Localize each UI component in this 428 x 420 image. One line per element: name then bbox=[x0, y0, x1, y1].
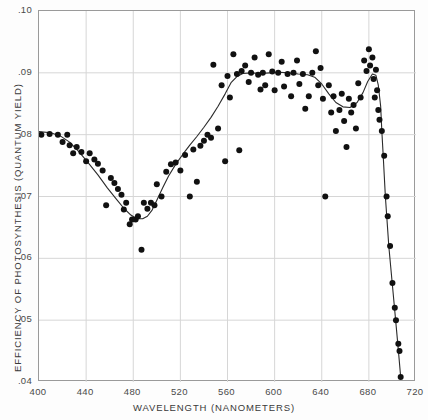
data-point bbox=[159, 194, 165, 200]
data-point bbox=[372, 95, 378, 101]
data-point bbox=[60, 139, 66, 145]
data-point bbox=[67, 142, 73, 148]
data-point bbox=[111, 180, 117, 186]
data-point bbox=[279, 59, 285, 65]
data-point bbox=[115, 186, 121, 192]
plot-area bbox=[38, 10, 415, 381]
data-point bbox=[47, 131, 53, 137]
x-tick-label: 440 bbox=[68, 386, 102, 397]
y-tick-label: .04 bbox=[8, 375, 32, 386]
data-point bbox=[369, 54, 375, 60]
x-tick-label: 400 bbox=[21, 386, 55, 397]
data-point bbox=[281, 83, 287, 89]
y-tick-label: .05 bbox=[8, 313, 32, 324]
data-point bbox=[252, 54, 258, 60]
data-point bbox=[70, 150, 76, 156]
data-point bbox=[385, 213, 391, 219]
data-point bbox=[78, 149, 84, 155]
data-point bbox=[135, 213, 141, 219]
x-tick-label: 680 bbox=[351, 386, 385, 397]
data-point bbox=[392, 305, 398, 311]
data-point bbox=[376, 117, 382, 123]
x-tick-label: 640 bbox=[304, 386, 338, 397]
data-point bbox=[177, 168, 183, 174]
data-point bbox=[348, 109, 354, 115]
data-point bbox=[230, 51, 236, 57]
data-point bbox=[163, 169, 169, 175]
y-tick-label: .09 bbox=[8, 66, 32, 77]
data-point bbox=[74, 144, 80, 150]
data-point bbox=[236, 147, 242, 153]
data-point bbox=[118, 192, 124, 198]
y-tick-label: .06 bbox=[8, 251, 32, 262]
x-axis-title: WAVELENGTH (NANOMETERS) bbox=[0, 402, 428, 413]
data-point bbox=[272, 87, 278, 93]
data-point bbox=[144, 206, 150, 212]
data-point bbox=[262, 82, 268, 88]
x-tick-label: 560 bbox=[210, 386, 244, 397]
data-point bbox=[355, 80, 361, 86]
data-point bbox=[100, 168, 106, 174]
data-point bbox=[219, 82, 225, 88]
data-point bbox=[290, 70, 296, 76]
data-point bbox=[239, 68, 245, 74]
data-point bbox=[187, 194, 193, 200]
data-point bbox=[361, 57, 367, 63]
data-point bbox=[371, 76, 377, 82]
data-point bbox=[353, 125, 359, 131]
data-point bbox=[393, 317, 399, 323]
data-point bbox=[173, 159, 179, 165]
data-point bbox=[364, 68, 370, 74]
data-point bbox=[397, 348, 403, 354]
data-point bbox=[336, 107, 342, 113]
data-point bbox=[257, 87, 263, 93]
data-point bbox=[302, 106, 308, 112]
data-point bbox=[225, 73, 231, 79]
data-point bbox=[139, 247, 145, 253]
data-point bbox=[315, 82, 321, 88]
data-point bbox=[300, 71, 306, 77]
data-point bbox=[248, 70, 254, 76]
data-point bbox=[309, 70, 315, 76]
data-layer bbox=[39, 11, 416, 382]
data-point bbox=[387, 243, 393, 249]
data-point bbox=[55, 132, 61, 138]
data-point bbox=[346, 96, 352, 102]
data-point bbox=[374, 87, 380, 93]
data-point bbox=[87, 150, 93, 156]
data-point bbox=[320, 96, 326, 102]
data-point bbox=[343, 144, 349, 150]
data-point bbox=[333, 128, 339, 134]
data-point bbox=[294, 57, 300, 63]
data-point bbox=[246, 79, 252, 85]
data-point bbox=[108, 175, 114, 181]
data-point bbox=[210, 62, 216, 68]
data-point bbox=[366, 46, 372, 52]
y-tick-label: .08 bbox=[8, 128, 32, 139]
data-point bbox=[83, 158, 89, 164]
data-point bbox=[351, 102, 357, 108]
data-point bbox=[123, 200, 129, 206]
data-point bbox=[215, 125, 221, 131]
data-point bbox=[339, 91, 345, 97]
data-point bbox=[367, 62, 373, 68]
data-point bbox=[103, 202, 109, 208]
chart-figure: EFFICIENCY OF PHOTOSYNTHESIS (QUANTUM YI… bbox=[0, 0, 428, 420]
data-point bbox=[358, 95, 364, 101]
data-point bbox=[151, 202, 157, 208]
data-point bbox=[95, 161, 101, 167]
x-tick-label: 480 bbox=[115, 386, 149, 397]
data-point bbox=[141, 200, 147, 206]
data-point bbox=[242, 62, 248, 68]
data-point bbox=[296, 81, 302, 87]
data-point bbox=[64, 132, 70, 138]
data-point bbox=[398, 374, 404, 380]
data-point bbox=[121, 206, 127, 212]
data-point bbox=[373, 67, 379, 73]
data-point bbox=[384, 194, 390, 200]
data-point bbox=[331, 93, 337, 99]
y-axis-title: EFFICIENCY OF PHOTOSYNTHESIS (QUANTUM YI… bbox=[12, 83, 23, 372]
data-point bbox=[328, 109, 334, 115]
data-point bbox=[194, 179, 200, 185]
data-point bbox=[201, 138, 207, 144]
